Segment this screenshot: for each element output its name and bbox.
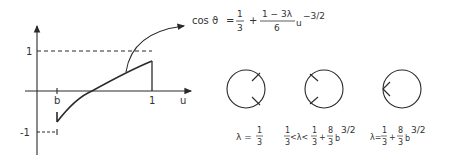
diagram-canvas: 1 -1 b 1 u cos ϑ = 1 3 + 1 − 3λ 6 u −3/2 <box>0 0 452 161</box>
y-tick-label-minus1: -1 <box>20 127 30 138</box>
circle-case-1 <box>227 70 265 108</box>
formula-frac1-num: 1 <box>237 9 243 19</box>
formula-eq: = <box>226 15 234 26</box>
svg-text:3/2: 3/2 <box>341 125 355 135</box>
svg-text:3: 3 <box>328 138 333 147</box>
formula-frac1-den: 3 <box>237 23 243 33</box>
svg-text:8: 8 <box>328 126 333 135</box>
case-label-1: λ = 1 3 <box>236 126 263 147</box>
svg-text:1: 1 <box>312 126 317 135</box>
x-axis-label-u: u <box>180 95 186 106</box>
svg-text:λ=: λ= <box>370 133 381 142</box>
x-tick-label-1: 1 <box>149 95 155 106</box>
svg-text:λ =: λ = <box>236 132 252 142</box>
formula: cos ϑ = 1 3 + 1 − 3λ 6 u −3/2 <box>192 9 325 33</box>
circle-case-2 <box>305 70 343 108</box>
formula-exponent: −3/2 <box>303 11 325 21</box>
svg-text:3: 3 <box>312 138 317 147</box>
svg-text:1: 1 <box>257 126 262 135</box>
svg-text:3: 3 <box>382 138 387 147</box>
formula-frac2-num: 1 − 3λ <box>262 9 293 19</box>
svg-text:8: 8 <box>398 126 403 135</box>
x-tick-label-b: b <box>54 95 60 106</box>
y-tick-label-1: 1 <box>26 46 32 57</box>
svg-text:1: 1 <box>382 126 387 135</box>
circle-case-3 <box>383 70 421 108</box>
pointer-arrow <box>126 26 184 72</box>
svg-text:3/2: 3/2 <box>411 125 425 135</box>
cos-theta-plot <box>25 26 191 155</box>
case-label-3: λ= 1 3 + 8 3 b 3/2 <box>370 125 425 147</box>
svg-text:+: + <box>389 133 396 142</box>
svg-text:b: b <box>405 134 410 143</box>
formula-var: u <box>296 18 302 28</box>
formula-frac2-den: 6 <box>274 23 280 33</box>
case-label-2: 1 3 <λ< 1 3 + 8 3 b 3/2 <box>284 125 355 147</box>
svg-text:b: b <box>335 134 340 143</box>
formula-lhs: cos ϑ <box>192 15 218 26</box>
formula-plus: + <box>249 15 257 26</box>
svg-text:3: 3 <box>398 138 403 147</box>
svg-text:<λ<: <λ< <box>290 133 308 142</box>
svg-text:3: 3 <box>257 138 262 147</box>
svg-text:+: + <box>319 133 326 142</box>
